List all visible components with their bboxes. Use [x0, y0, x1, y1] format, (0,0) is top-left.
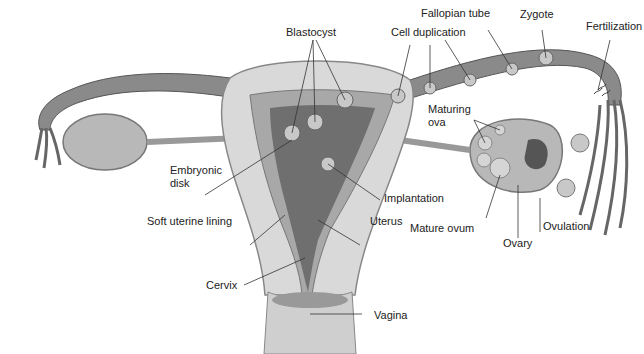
label-embryonic-disk: Embryonicdisk — [170, 164, 222, 190]
left-fallopian-tube — [39, 74, 235, 130]
label-mature-ovum: Mature ovum — [410, 222, 474, 235]
label-ovulation: Ovulation — [543, 220, 589, 233]
label-zygote: Zygote — [520, 8, 554, 21]
right-fallopian-tube — [405, 50, 621, 105]
label-cervix: Cervix — [206, 279, 237, 292]
label-fertilization: Fertilization — [586, 20, 642, 33]
label-implantation: Implantation — [384, 192, 444, 205]
reproductive-system-illustration — [0, 0, 644, 354]
left-ovary — [63, 114, 147, 170]
label-fallopian-tube: Fallopian tube — [421, 7, 490, 20]
right-fimbriae-icon — [580, 100, 627, 235]
label-uterus: Uterus — [370, 215, 402, 228]
label-blastocyst: Blastocyst — [286, 26, 336, 39]
left-fimbriae-icon — [36, 128, 60, 168]
label-maturing-ova: Maturingova — [428, 103, 471, 129]
label-ovary: Ovary — [503, 237, 532, 250]
label-soft-uterine-lining: Soft uterine lining — [147, 215, 232, 228]
label-cell-duplication: Cell duplication — [391, 26, 466, 39]
label-vagina: Vagina — [374, 309, 407, 322]
